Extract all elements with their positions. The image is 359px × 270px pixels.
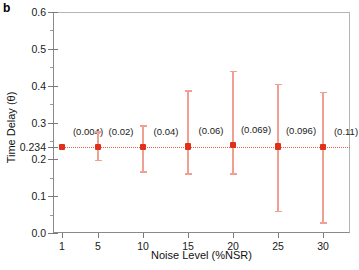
error-bar-cap-upper xyxy=(140,125,147,126)
error-bar-cap-upper xyxy=(230,71,237,72)
y-axis-tick-inner xyxy=(53,147,58,148)
error-bar-cap-lower xyxy=(320,222,327,223)
data-point-label: (0.06) xyxy=(199,126,224,136)
y-axis-tick-inner xyxy=(53,86,58,87)
error-bar-cap-upper xyxy=(95,131,102,132)
y-axis-minor-tick xyxy=(50,141,53,142)
data-marker[interactable] xyxy=(230,142,237,149)
error-bar-cap-upper xyxy=(275,84,282,85)
y-axis-tick-label: 0.5 xyxy=(31,44,46,55)
y-axis-minor-tick xyxy=(50,30,53,31)
y-axis-tick-label: 0.3 xyxy=(31,117,46,128)
plot-area: 0.00.10.20.2340.30.40.50.6151015202530(0… xyxy=(53,12,350,233)
error-bar-cap-lower xyxy=(230,173,237,174)
data-marker[interactable] xyxy=(185,143,192,150)
x-axis-tick xyxy=(62,233,63,238)
y-axis-tick-inner xyxy=(53,233,58,234)
error-bar-cap-lower xyxy=(185,173,192,174)
y-axis-minor-tick xyxy=(50,178,53,179)
x-axis-tick xyxy=(233,233,234,238)
error-bar xyxy=(187,90,188,173)
panel-label: b xyxy=(3,2,10,14)
y-axis-tick-inner xyxy=(53,49,58,50)
error-bar xyxy=(322,92,323,222)
data-point-label: (0.096) xyxy=(286,126,316,136)
x-axis-tick xyxy=(188,233,189,238)
data-point-label: (0.02) xyxy=(109,127,134,137)
x-axis-tick xyxy=(323,233,324,238)
y-axis-tick-label: 0.0 xyxy=(31,228,46,239)
x-axis-title: Noise Level (%NSR) xyxy=(53,250,350,261)
y-axis-minor-tick xyxy=(50,67,53,68)
data-point-label: (0.11) xyxy=(334,127,358,137)
y-axis-title: Time Delay (θ) xyxy=(6,58,17,198)
y-axis-minor-tick xyxy=(50,215,53,216)
data-marker[interactable] xyxy=(59,144,66,151)
data-point-label: (0.069) xyxy=(241,125,271,135)
figure-panel-b: b 0.00.10.20.2340.30.40.50.6151015202530… xyxy=(0,0,359,270)
data-marker[interactable] xyxy=(275,143,282,150)
error-bar-cap-lower xyxy=(140,171,147,172)
y-axis-tick-label: 0.4 xyxy=(31,80,46,91)
y-axis-tick-label: 0.1 xyxy=(31,191,46,202)
y-axis-tick-inner xyxy=(53,159,58,160)
x-axis-tick xyxy=(143,233,144,238)
y-axis-tick-label: 0.2 xyxy=(31,154,46,165)
y-axis-tick-label: 0.234 xyxy=(20,142,46,153)
y-axis-tick-inner xyxy=(53,12,58,13)
x-axis-tick xyxy=(278,233,279,238)
data-marker[interactable] xyxy=(140,144,147,151)
data-marker[interactable] xyxy=(320,144,327,151)
error-bar-cap-upper xyxy=(320,92,327,93)
error-bar-cap-lower xyxy=(95,160,102,161)
error-bar xyxy=(232,71,233,173)
data-marker[interactable] xyxy=(95,144,102,151)
error-bar-cap-upper xyxy=(185,90,192,91)
y-axis-tick-label: 0.6 xyxy=(31,7,46,18)
data-point-label: (0.04) xyxy=(154,127,179,137)
error-bar-cap-lower xyxy=(275,211,282,212)
y-axis-tick-inner xyxy=(53,123,58,124)
x-axis-tick xyxy=(98,233,99,238)
y-axis-tick-inner xyxy=(53,196,58,197)
y-axis-minor-tick xyxy=(50,104,53,105)
